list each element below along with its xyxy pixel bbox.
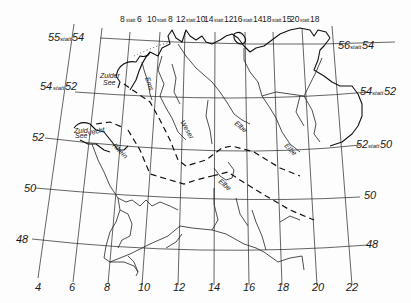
right-lat-54-orig: 52 <box>384 85 396 97</box>
label-weser: Weser <box>179 119 195 140</box>
longitude-line-22 <box>332 26 352 285</box>
right-lat-50: 50 <box>364 189 377 201</box>
top-lon-10-statt: statt <box>157 17 167 23</box>
right-lat-52-orig: 50 <box>380 138 393 150</box>
top-lon-20: 20 <box>290 14 300 24</box>
river-vistula <box>304 58 322 142</box>
border-dashed-3 <box>128 130 212 184</box>
left-lat-50: 50 <box>24 182 37 194</box>
bottom-lon-22: 22 <box>345 281 358 293</box>
top-lon-20-orig: 18 <box>310 14 320 24</box>
top-lon-14-statt: statt <box>214 17 224 23</box>
river-weser <box>158 56 186 140</box>
bottom-lon-18: 18 <box>277 281 290 293</box>
dotted-coast <box>134 42 170 56</box>
historical-map: 8 statt 6 10 statt 8 12 statt 10 14 stat… <box>0 0 411 303</box>
river-elbe <box>178 44 250 124</box>
coastline-baltic-east <box>314 38 362 146</box>
right-lat-56-orig: 54 <box>362 39 374 51</box>
bottom-lon-8: 8 <box>104 281 111 293</box>
label-see-small: See <box>75 132 88 139</box>
longitude-line-14 <box>214 32 215 285</box>
right-lat-48: 48 <box>366 238 379 250</box>
top-lon-10-orig: 8 <box>168 14 173 24</box>
right-lat-54-statt: statt <box>372 90 384 96</box>
bottom-lon-14: 14 <box>208 281 220 293</box>
longitude-line-20 <box>302 28 317 285</box>
right-lat-56-statt: statt <box>350 44 362 50</box>
bottom-lon-20: 20 <box>311 281 325 293</box>
top-lon-16: 16 <box>233 14 243 24</box>
label-elbe-2: Elbe <box>283 142 298 157</box>
bottom-lon-4: 4 <box>35 281 41 293</box>
river-oder <box>244 48 300 152</box>
bottom-lon-16: 16 <box>243 281 256 293</box>
river-vistula-trib <box>296 96 304 126</box>
top-lon-8: 8 <box>120 14 125 24</box>
left-lat-48: 48 <box>16 233 29 245</box>
bottom-lon-12: 12 <box>173 281 185 293</box>
longitude-line-12 <box>178 32 185 285</box>
longitude-line-18 <box>273 32 282 285</box>
island-rugen <box>234 32 246 44</box>
top-longitude-labels: 8 statt 6 10 statt 8 12 statt 10 14 stat… <box>120 14 320 24</box>
coastline-north <box>118 28 330 70</box>
place-labels: Zuider See Zuid See Vecht Ems Weser Elbe… <box>73 72 298 192</box>
river-warthe <box>262 92 304 96</box>
river-saale <box>206 100 212 144</box>
river-neckar <box>118 210 132 248</box>
longitude-line-4 <box>38 24 74 278</box>
longitude-line-6 <box>73 28 102 282</box>
latitude-line-48 <box>32 239 368 250</box>
river-weser-trib <box>172 64 180 104</box>
longitude-line-16 <box>245 32 249 285</box>
right-lat-52: 52 <box>356 138 368 150</box>
top-lon-12: 12 <box>176 14 186 24</box>
left-lat-54: 54 <box>40 80 52 92</box>
river-bohemia-trib <box>236 198 248 226</box>
top-lon-16-statt: statt <box>243 17 253 23</box>
rhine-mouth <box>80 140 110 152</box>
river-morava <box>252 210 266 250</box>
top-lon-8-orig: 6 <box>137 14 142 24</box>
top-lon-18: 18 <box>262 14 272 24</box>
label-ems: Ems <box>144 76 156 92</box>
top-lon-20-statt: statt <box>300 17 310 23</box>
top-lon-12-statt: statt <box>186 17 196 23</box>
bottom-lon-10: 10 <box>138 281 151 293</box>
top-lon-10: 10 <box>147 14 157 24</box>
top-lon-14: 14 <box>204 14 214 24</box>
right-lat-52-statt: statt <box>368 143 380 149</box>
left-latitude-labels: 55 statt 54 54 statt 52 52 50 48 <box>16 31 84 245</box>
river-east-trib <box>280 216 300 222</box>
river-border-south <box>278 256 304 270</box>
river-vltava <box>212 188 218 230</box>
bottom-longitude-labels: 4 6 8 10 12 14 16 18 20 22 <box>35 281 358 293</box>
river-elbe-upper <box>214 162 234 180</box>
label-elbe-3: Elbe <box>217 177 232 191</box>
label-zuider-see-2: See <box>103 79 116 86</box>
bottom-lon-6: 6 <box>69 281 76 293</box>
map-canvas: 8 statt 6 10 statt 8 12 statt 10 14 stat… <box>0 0 411 303</box>
left-lat-54-orig: 52 <box>65 80 77 92</box>
top-lon-8-statt: statt <box>126 17 136 23</box>
label-vecht: Vecht <box>86 125 106 137</box>
latitude-line-54 <box>75 92 368 98</box>
left-lat-55-orig: 54 <box>72 31 84 43</box>
label-rhein: Rhein <box>111 142 129 160</box>
river-rhine <box>92 144 138 272</box>
top-lon-18-statt: statt <box>272 17 282 23</box>
left-lat-55-statt: statt <box>60 36 72 42</box>
label-zuider-see: Zuider <box>99 72 121 79</box>
left-lat-54-statt: statt <box>53 85 65 91</box>
river-danube <box>110 226 278 262</box>
right-lat-54: 54 <box>360 85 372 97</box>
left-lat-52: 52 <box>32 131 44 143</box>
